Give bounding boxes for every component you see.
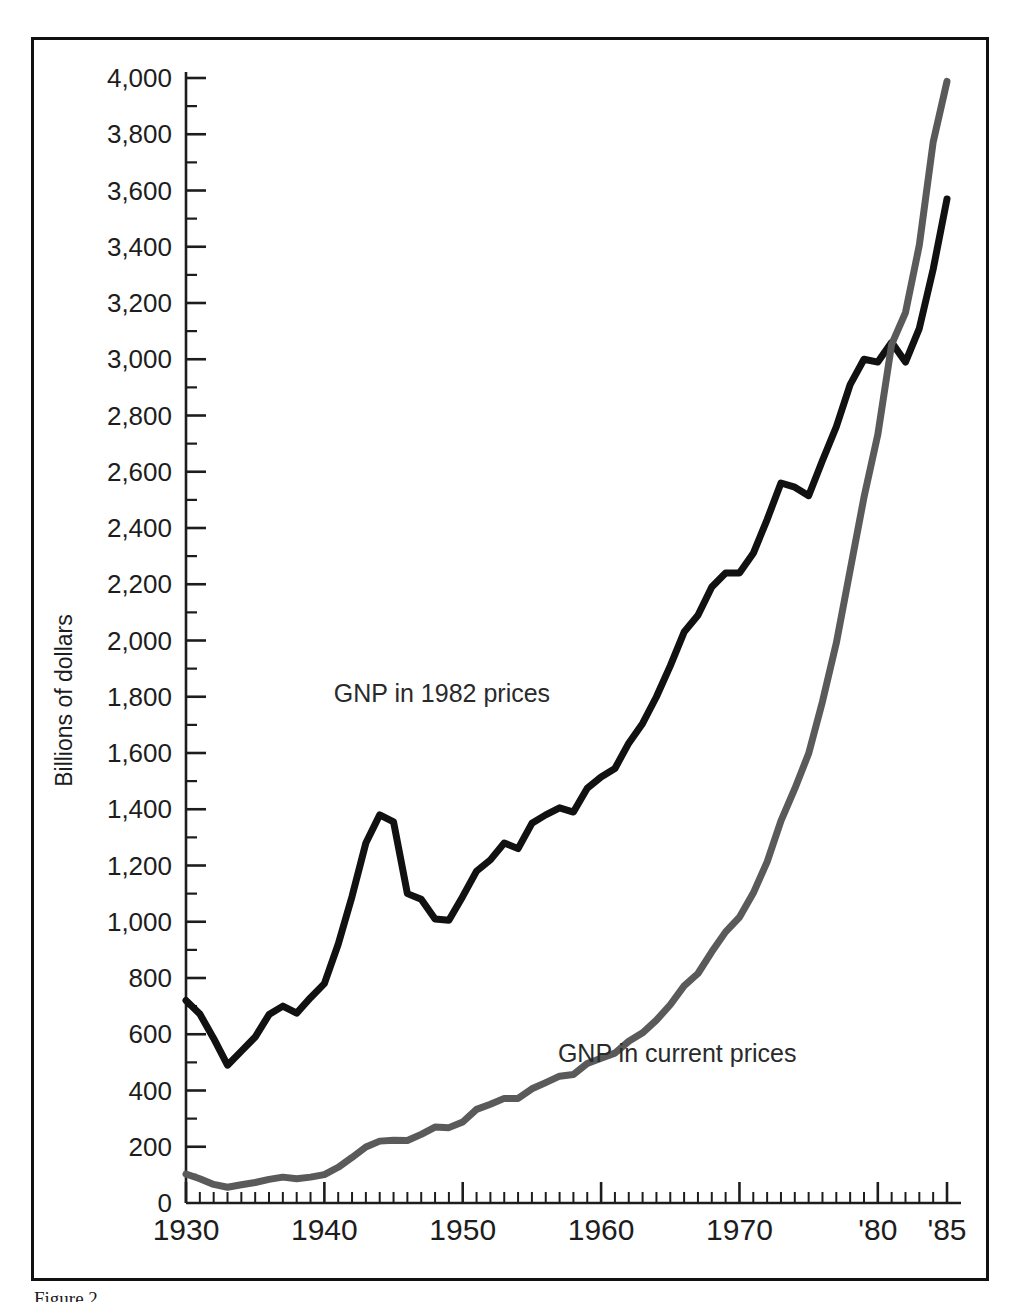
y-axis-tick-label: 4,000 [107,63,172,93]
x-axis-tick-label: '80 [858,1213,897,1246]
y-axis-tick-label: 1,000 [107,907,172,937]
y-axis-tick-label: 3,800 [107,119,172,149]
y-axis-tick-label: 1,600 [107,738,172,768]
series-annotation-gnp-current-prices: GNP in current prices [558,1039,797,1067]
y-axis-tick-label: 1,800 [107,682,172,712]
y-axis-tick-label: 400 [129,1076,172,1106]
series-line-gnp-current-prices [186,81,947,1187]
x-axis-tick-label: 1960 [568,1213,635,1246]
y-axis-tick-label: 2,000 [107,626,172,656]
y-axis-tick-label: 2,800 [107,401,172,431]
y-axis-tick-label: 3,600 [107,176,172,206]
y-axis-title: Billions of dollars [51,614,77,787]
x-axis-tick-label: 1930 [153,1213,220,1246]
x-axis-tick-label: 1970 [706,1213,773,1246]
y-axis-tick-label: 2,200 [107,569,172,599]
y-axis-tick-label: 3,400 [107,232,172,262]
y-axis-tick-label: 2,600 [107,457,172,487]
y-axis-tick-label: 3,000 [107,344,172,374]
x-axis-tick-label: '85 [927,1213,966,1246]
y-axis-tick-label: 1,400 [107,794,172,824]
y-axis-tick-label: 2,400 [107,513,172,543]
figure-page: 02004006008001,0001,2001,4001,6001,8002,… [0,0,1023,1302]
y-axis-tick-label: 1,200 [107,851,172,881]
gnp-line-chart: 02004006008001,0001,2001,4001,6001,8002,… [31,37,989,1281]
x-axis-tick-label: 1940 [291,1213,358,1246]
y-axis-tick-label: 3,200 [107,288,172,318]
y-axis-tick-label: 800 [129,963,172,993]
series-line-gnp-1982-prices [186,199,947,1065]
x-axis-tick-label: 1950 [429,1213,496,1246]
figure-caption: Figure 2 [34,1288,534,1302]
y-axis-tick-label: 600 [129,1019,172,1049]
series-annotation-gnp-1982-prices: GNP in 1982 prices [334,679,550,707]
y-axis-tick-label: 200 [129,1132,172,1162]
